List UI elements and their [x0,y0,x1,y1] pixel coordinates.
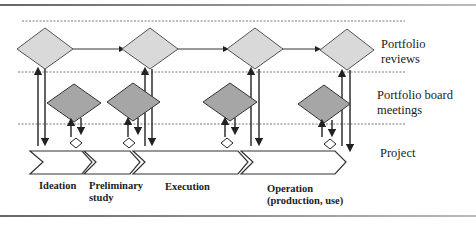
phase-label-line: Operation [267,183,343,195]
phase-label-line: Preliminary [89,180,143,192]
review-diamond-1 [17,28,73,69]
phase-label-line: Execution [165,181,210,193]
phase-label-operation: Operation (production, use) [267,183,343,207]
chevron-execution [133,151,248,174]
lane-label-portfolio-reviews: Portfolio reviews [381,37,425,67]
lane-label-line: Portfolio [381,37,425,52]
board-meeting-diamonds [47,83,350,123]
review-diamond-4 [320,29,374,70]
gate-diamond-3 [221,138,233,148]
board-diamond-1 [47,84,101,122]
lane-label-project: Project [380,146,415,161]
phase-label-ideation: Ideation [39,180,76,192]
bottom-border [0,215,476,217]
review-diamond-2 [122,28,178,69]
gate-diamond-2 [123,138,135,148]
chevron-operation [241,151,346,174]
phase-label-line: study [89,192,143,204]
phase-label-line: (production, use) [267,195,343,207]
project-gate-diamonds [70,138,336,149]
gate-diamond-1 [70,138,82,148]
phase-label-execution: Execution [165,181,210,193]
chevron-ideation [30,151,92,174]
lane-label-line: Portfolio board [377,88,453,103]
lane-label-line: meetings [377,103,453,118]
gate-board-arrows [71,118,332,137]
board-diamond-3 [203,83,257,121]
lane-label-line: reviews [381,52,425,67]
chevron-preliminary-study [84,151,140,174]
gate-diamond-4 [324,139,336,149]
phase-label-preliminary-study: Preliminary study [89,180,143,204]
review-diamond-3 [227,28,283,69]
lane-label-line: Project [380,146,415,161]
project-phase-chevrons [30,151,346,174]
lane-label-board-meetings: Portfolio board meetings [377,88,453,118]
phase-label-line: Ideation [39,180,76,192]
